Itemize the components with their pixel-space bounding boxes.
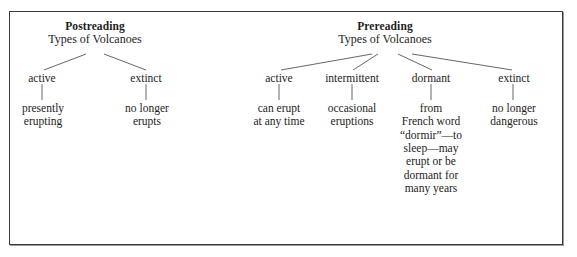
node-prereading-active-description: can erupt at any time: [241, 102, 317, 129]
tree-postreading-root-label: Types of Volcanoes: [30, 33, 160, 47]
diagram-canvas: Postreading Types of Volcanoes active pr…: [0, 0, 577, 257]
node-postreading-active-description: presently erupting: [4, 102, 82, 129]
tree-postreading-heading: Postreading: [30, 20, 160, 33]
node-prereading-extinct-description: no longer dangerous: [475, 102, 553, 129]
node-postreading-extinct-description: no longer erupts: [108, 102, 186, 129]
node-prereading-active[interactable]: active: [249, 72, 309, 85]
node-prereading-intermittent-description: occasional eruptions: [314, 102, 390, 129]
node-prereading-intermittent[interactable]: intermittent: [311, 72, 393, 85]
node-prereading-extinct[interactable]: extinct: [485, 72, 543, 85]
node-prereading-dormant[interactable]: dormant: [399, 72, 463, 85]
tree-prereading-heading: Prereading: [320, 20, 450, 33]
tree-prereading-title-block: Prereading Types of Volcanoes: [320, 20, 450, 47]
node-postreading-extinct[interactable]: extinct: [116, 72, 176, 85]
node-postreading-active[interactable]: active: [12, 72, 72, 85]
tree-prereading-root-label: Types of Volcanoes: [320, 33, 450, 47]
node-prereading-dormant-description: from French word “dormir”—to sleep—may e…: [389, 102, 473, 195]
tree-postreading-title-block: Postreading Types of Volcanoes: [30, 20, 160, 47]
